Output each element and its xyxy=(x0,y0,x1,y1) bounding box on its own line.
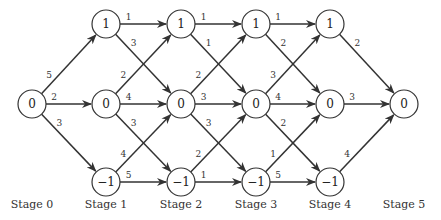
edge-weight: 1 xyxy=(201,12,207,22)
node-value: 1 xyxy=(102,17,110,31)
stage-label-0: Stage 0 xyxy=(11,198,54,211)
node-value: 0 xyxy=(252,97,260,111)
edge-s1_0-to-s2_0: 4 xyxy=(120,92,166,104)
edge-weight: 2 xyxy=(51,92,57,102)
node-value: 1 xyxy=(326,17,334,31)
edge-weight: 2 xyxy=(280,38,286,48)
edge-weight: 4 xyxy=(344,149,350,159)
node-s3_m1: −1 xyxy=(242,168,270,196)
arrow-line xyxy=(340,115,394,172)
edge-weight: 5 xyxy=(275,170,281,180)
edge-s4_m1-to-s5_0: 4 xyxy=(340,115,394,172)
edge-weight: 3 xyxy=(201,92,207,102)
edge-weight: 2 xyxy=(280,118,286,128)
node-s2_0: 0 xyxy=(167,90,195,118)
stage-label-4: Stage 4 xyxy=(309,198,352,211)
edge-s3_m1-to-s4_m1: 5 xyxy=(270,170,315,182)
edge-weight: 3 xyxy=(56,118,62,128)
edge-s0_0-to-s1_0: 2 xyxy=(46,92,91,104)
edge-s4_0-to-s5_0: 3 xyxy=(344,92,389,104)
edge-s2_0-to-s3_0: 3 xyxy=(195,92,241,104)
stage-labels: Stage 0Stage 1Stage 2Stage 3Stage 4Stage… xyxy=(11,198,426,211)
node-s4_1: 1 xyxy=(316,10,344,38)
edge-weight: 3 xyxy=(270,70,276,80)
arrow-line xyxy=(42,114,96,171)
stage-label-2: Stage 2 xyxy=(160,198,203,211)
node-value: 0 xyxy=(177,97,185,111)
node-s4_m1: −1 xyxy=(316,168,344,196)
node-value: 1 xyxy=(252,17,260,31)
edge-weight: 4 xyxy=(121,149,127,159)
edge-weight: 3 xyxy=(206,118,212,128)
node-s5_0: 0 xyxy=(390,90,418,118)
node-value: 0 xyxy=(102,97,110,111)
edge-s0_0-to-s1_1: 5 xyxy=(42,35,96,94)
node-value: 0 xyxy=(28,97,36,111)
node-s3_1: 1 xyxy=(242,10,270,38)
edge-s2_m1-to-s3_m1: 1 xyxy=(195,170,241,182)
node-s0_0: 0 xyxy=(18,90,46,118)
node-value: −1 xyxy=(97,175,115,189)
edge-weight: 1 xyxy=(206,38,212,48)
edge-weight: 4 xyxy=(275,92,281,102)
stage-label-3: Stage 3 xyxy=(235,198,278,211)
node-s1_1: 1 xyxy=(92,10,120,38)
edge-weight: 3 xyxy=(131,38,137,48)
edge-s0_0-to-s1_m1: 3 xyxy=(42,114,96,171)
edge-s2_1-to-s3_1: 1 xyxy=(195,12,241,24)
node-value: 0 xyxy=(400,97,408,111)
edge-weight: 4 xyxy=(126,92,132,102)
edge-weight: 1 xyxy=(201,170,207,180)
arrow-line xyxy=(340,34,394,93)
edge-s3_0-to-s4_0: 4 xyxy=(270,92,315,104)
edge-weight: 2 xyxy=(196,70,202,80)
edge-s1_m1-to-s2_m1: 5 xyxy=(120,170,166,182)
node-s1_m1: −1 xyxy=(92,168,120,196)
node-s2_m1: −1 xyxy=(167,168,195,196)
stage-network-diagram: 523132434511233211234215234 010−110−110−… xyxy=(0,0,441,220)
edge-weight: 3 xyxy=(349,92,355,102)
edge-s3_1-to-s4_1: 1 xyxy=(270,12,315,24)
edge-weight: 2 xyxy=(354,38,360,48)
node-value: 1 xyxy=(177,17,185,31)
edge-weight: 5 xyxy=(126,170,132,180)
node-value: −1 xyxy=(321,175,339,189)
edge-s4_1-to-s5_0: 2 xyxy=(340,34,394,93)
node-s1_0: 0 xyxy=(92,90,120,118)
edge-weight: 5 xyxy=(46,70,52,80)
node-value: −1 xyxy=(247,175,265,189)
arrow-line xyxy=(42,35,96,94)
edge-weight: 1 xyxy=(126,12,132,22)
edge-weight: 1 xyxy=(275,12,281,22)
node-s4_0: 0 xyxy=(316,90,344,118)
node-s2_1: 1 xyxy=(167,10,195,38)
stage-label-1: Stage 1 xyxy=(85,198,128,211)
stage-label-5: Stage 5 xyxy=(383,198,426,211)
edge-weight: 3 xyxy=(131,118,137,128)
edge-weight: 1 xyxy=(270,149,276,159)
edge-weight: 2 xyxy=(196,149,202,159)
node-value: 0 xyxy=(326,97,334,111)
edge-s1_1-to-s2_1: 1 xyxy=(120,12,166,24)
edge-weight: 2 xyxy=(121,70,127,80)
node-s3_0: 0 xyxy=(242,90,270,118)
node-value: −1 xyxy=(172,175,190,189)
